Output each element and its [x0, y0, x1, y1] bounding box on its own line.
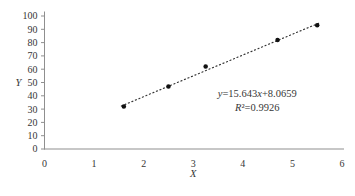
- x-tick-label: 1: [92, 158, 97, 169]
- y-tick-label: 20: [28, 117, 38, 128]
- data-point: [166, 84, 171, 89]
- axes: [41, 12, 344, 150]
- data-point: [275, 38, 280, 43]
- x-tick-label: 5: [290, 158, 295, 169]
- data-point: [122, 104, 127, 109]
- x-tick-label: 6: [340, 158, 345, 169]
- y-tick-label: 90: [28, 24, 38, 35]
- data-point: [203, 64, 208, 69]
- x-tick-label: 0: [42, 158, 47, 169]
- y-tick-label: 70: [28, 50, 38, 61]
- x-tick-label: 4: [240, 158, 245, 169]
- y-tick-label: 60: [28, 64, 38, 75]
- trendline-r-squared-label: R²=0.9926: [234, 102, 279, 113]
- x-tick-label: 2: [141, 158, 146, 169]
- y-tick-label: 80: [28, 37, 38, 48]
- y-tick-label: 50: [28, 77, 38, 88]
- y-tick-label: 10: [28, 130, 38, 141]
- y-tick-label: 40: [28, 90, 38, 101]
- y-tick-label: 30: [28, 104, 38, 115]
- scatter-chart: 01020304050607080901000123456YXy=15.643x…: [0, 0, 355, 196]
- chart-container: 01020304050607080901000123456YXy=15.643x…: [0, 0, 355, 196]
- data-point: [315, 23, 320, 28]
- x-axis-title: X: [189, 168, 197, 179]
- y-tick-label: 100: [23, 10, 38, 21]
- trendline-equation-label: y=15.643x+8.0659: [217, 88, 297, 99]
- y-tick-label: 0: [33, 143, 38, 154]
- y-axis-title: Y: [16, 77, 23, 88]
- y-tick-labels: 0102030405060708090100: [23, 10, 38, 154]
